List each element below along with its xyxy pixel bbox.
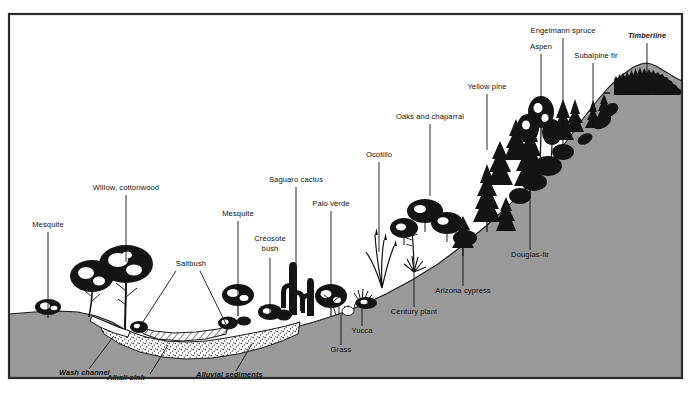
label-engelmann-spruce: Engelmann spruce xyxy=(531,26,596,35)
label-yellow-pine: Yellow pine xyxy=(467,82,506,91)
label-creosote-bush: Creosote xyxy=(254,234,286,243)
label-palo-verde: Palo verde xyxy=(312,199,349,208)
label-mesquite-right: Mesquite xyxy=(222,209,254,218)
label-aspen: Aspen xyxy=(530,42,552,51)
label-mesquite-left: Mesquite xyxy=(32,220,64,229)
vegetation-profile-figure: MesquiteWillow, cottonwoodSaltbushMesqui… xyxy=(0,0,691,396)
label-oaks-chaparral: Oaks and chaparral xyxy=(396,112,464,121)
label-arizona-cypress: Arizona cypress xyxy=(435,286,491,295)
label-yucca: Yucca xyxy=(351,326,373,335)
label-wash-channel: Wash channel xyxy=(59,368,111,377)
label-ocotillo: Ocotillo xyxy=(366,150,392,159)
label-subalpine-fir: Subalpine fir xyxy=(574,51,618,60)
label-creosote-bush-2: bush xyxy=(262,244,279,253)
label-douglas-fir: Douglas-fir xyxy=(511,250,549,259)
label-timberline: Timberline xyxy=(628,31,666,40)
label-willow-cottonwood: Willow, cottonwood xyxy=(93,183,159,192)
profile-diagram: MesquiteWillow, cottonwoodSaltbushMesqui… xyxy=(0,0,691,396)
label-saltbush: Saltbush xyxy=(176,259,206,268)
label-saguaro-cactus: Saguaro cactus xyxy=(269,175,323,184)
label-grass: Grass xyxy=(331,345,352,354)
label-century-plant: Century plant xyxy=(391,307,438,316)
